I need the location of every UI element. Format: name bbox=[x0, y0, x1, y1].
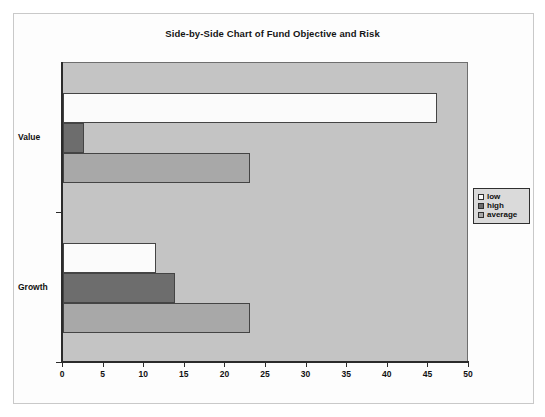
x-tick-mark bbox=[62, 362, 63, 367]
legend-label-low: low bbox=[487, 193, 500, 201]
x-tick-mark bbox=[468, 362, 469, 367]
x-tick-label: 45 bbox=[423, 369, 432, 379]
y-category-label-value: Value bbox=[18, 132, 40, 142]
x-tick-label: 10 bbox=[138, 369, 147, 379]
legend-item-high: high bbox=[478, 202, 526, 210]
legend-label-high: high bbox=[487, 202, 504, 210]
bar-growth-low bbox=[63, 243, 156, 273]
legend-item-low: low bbox=[478, 193, 526, 201]
bar-growth-average bbox=[63, 303, 250, 333]
x-tick-label: 40 bbox=[382, 369, 391, 379]
x-tick-mark bbox=[265, 362, 266, 367]
y-tick-mark bbox=[56, 212, 62, 213]
legend-swatch-low bbox=[478, 194, 484, 200]
bar-value-low bbox=[63, 93, 437, 123]
bar-value-high bbox=[63, 123, 84, 153]
legend-swatch-average bbox=[478, 212, 484, 218]
plot-area bbox=[62, 62, 468, 362]
chart-legend: lowhighaverage bbox=[473, 188, 530, 224]
bar-growth-high bbox=[63, 273, 175, 303]
x-tick-label: 50 bbox=[463, 369, 472, 379]
chart-title: Side-by-Side Chart of Fund Objective and… bbox=[0, 28, 545, 39]
x-tick-mark bbox=[224, 362, 225, 367]
x-tick-label: 20 bbox=[220, 369, 229, 379]
x-tick-mark bbox=[184, 362, 185, 367]
x-tick-mark bbox=[103, 362, 104, 367]
x-tick-mark bbox=[387, 362, 388, 367]
x-tick-label: 30 bbox=[301, 369, 310, 379]
x-tick-mark bbox=[306, 362, 307, 367]
x-tick-mark bbox=[143, 362, 144, 367]
x-tick-mark bbox=[346, 362, 347, 367]
x-tick-label: 35 bbox=[341, 369, 350, 379]
x-tick-label: 25 bbox=[260, 369, 269, 379]
x-tick-label: 5 bbox=[100, 369, 105, 379]
y-tick-mark bbox=[56, 362, 62, 363]
bars-container bbox=[63, 63, 467, 361]
x-tick-label: 0 bbox=[60, 369, 65, 379]
y-category-label-growth: Growth bbox=[18, 282, 48, 292]
legend-item-average: average bbox=[478, 211, 526, 219]
legend-swatch-high bbox=[478, 203, 484, 209]
x-tick-label: 15 bbox=[179, 369, 188, 379]
legend-label-average: average bbox=[487, 211, 517, 219]
x-tick-mark bbox=[427, 362, 428, 367]
bar-value-average bbox=[63, 153, 250, 183]
